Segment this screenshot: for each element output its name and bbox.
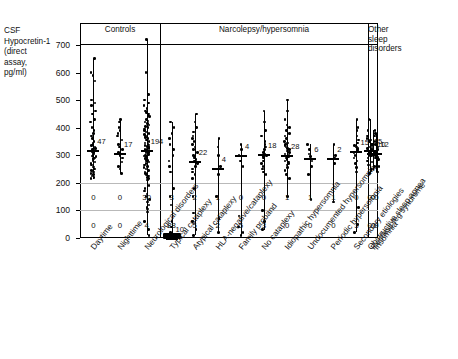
y-axis-label-line: assay,: [4, 58, 64, 69]
y-tick-label-500: 500: [40, 95, 70, 105]
group-divider-1: [160, 23, 161, 238]
y-tick-400: [76, 128, 80, 129]
count-100-200-8: 1: [274, 193, 300, 202]
y-tick-300: [76, 155, 80, 156]
data-point: [366, 160, 369, 163]
data-point: [284, 118, 287, 121]
count-above-200-11: 15: [360, 138, 368, 147]
median-bar: [258, 154, 270, 156]
count-above-200-8: 28: [291, 142, 299, 151]
data-point: [90, 177, 93, 180]
median-bar: [281, 155, 293, 157]
count-above-200-0: 47: [97, 137, 105, 146]
data-point: [148, 132, 151, 135]
y-tick-700: [76, 45, 80, 46]
count-above-200-1: 17: [124, 140, 132, 149]
y-tick-label-600: 600: [40, 68, 70, 78]
figure-root: CSFHypocretin-1(directassay,pg/ml) Contr…: [0, 0, 458, 359]
data-point: [191, 177, 194, 180]
x-axis-labels: DaytimeNighttimeNeurological disordersTy…: [0, 240, 458, 359]
data-point: [288, 132, 291, 135]
y-tick-label-100: 100: [40, 205, 70, 215]
data-point: [284, 169, 287, 172]
data-point: [147, 93, 150, 96]
median-bar: [114, 153, 126, 155]
count-above-200-5: 4: [222, 155, 226, 164]
y-tick-600: [76, 73, 80, 74]
data-point: [260, 135, 263, 138]
count-100-200-2: 30: [134, 193, 160, 202]
count-above-200-4: 22: [199, 148, 207, 157]
median-bar: [304, 158, 316, 160]
count-100-200-1: 0: [107, 193, 133, 202]
group-header-1: Controls: [80, 25, 160, 35]
data-point: [90, 104, 93, 107]
median-bar: [141, 150, 153, 152]
count-above-200-14: 12: [380, 140, 388, 149]
median-bar: [189, 161, 201, 163]
data-point: [168, 165, 171, 168]
median-bar: [87, 150, 99, 152]
data-point: [288, 177, 291, 180]
data-point: [306, 143, 309, 146]
y-axis-label-line: CSF: [4, 26, 64, 37]
series-range-stem: [120, 119, 121, 173]
data-point: [148, 115, 151, 118]
count-above-200-9: 6: [314, 145, 318, 154]
y-tick-label-400: 400: [40, 123, 70, 133]
series-range-stem: [147, 39, 148, 235]
group-header-2: Narcolepsy/hypersomnia: [160, 25, 368, 35]
data-point: [191, 143, 194, 146]
y-tick-100: [76, 210, 80, 211]
y-tick-500: [76, 100, 80, 101]
data-point: [288, 126, 291, 129]
count-above-200-2: 194: [151, 137, 164, 146]
y-tick-label-300: 300: [40, 150, 70, 160]
data-point: [168, 137, 171, 140]
data-point: [353, 231, 356, 234]
y-tick-200: [76, 183, 80, 184]
data-point: [121, 148, 124, 151]
group-header-divider: [80, 44, 378, 45]
count-100-200-0: 0: [80, 193, 106, 202]
group-header-3: Other sleep disorders: [368, 25, 378, 54]
count-above-200-7: 18: [268, 141, 276, 150]
series-range-stem: [310, 144, 311, 199]
median-bar: [370, 153, 382, 155]
median-bar: [212, 168, 224, 170]
median-bar: [235, 155, 247, 157]
data-point: [242, 231, 245, 234]
data-point: [378, 165, 381, 168]
series-range-stem: [287, 100, 288, 197]
median-bar: [327, 158, 339, 160]
y-tick-label-200: 200: [40, 178, 70, 188]
count-above-200-6: 4: [245, 142, 249, 151]
series-range-stem: [93, 59, 94, 179]
count-above-200-10: 2: [337, 145, 341, 154]
y-tick-label-700: 700: [40, 40, 70, 50]
median-bar: [350, 151, 362, 153]
data-point: [90, 144, 93, 147]
data-point: [173, 126, 176, 129]
y-tick-0: [76, 238, 80, 239]
